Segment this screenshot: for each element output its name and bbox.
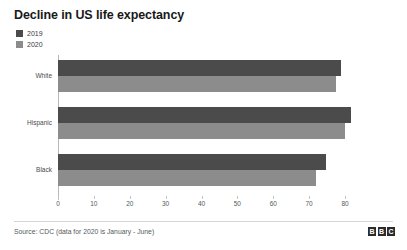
x-axis: 01020304050607080 bbox=[58, 200, 345, 214]
x-tick-mark bbox=[130, 196, 131, 199]
bar-2019[interactable] bbox=[58, 60, 341, 76]
bar-2019[interactable] bbox=[58, 107, 351, 123]
source-note: Source: CDC (data for 2020 is January - … bbox=[14, 228, 154, 235]
bbc-logo: B B C bbox=[368, 227, 395, 236]
x-tick-mark bbox=[345, 196, 346, 199]
bar-group: Black bbox=[58, 154, 345, 186]
bar-2020[interactable] bbox=[58, 123, 345, 139]
logo-box-b2: B bbox=[378, 227, 386, 236]
legend-item-2020[interactable]: 2020 bbox=[16, 40, 43, 49]
category-label: White bbox=[0, 72, 52, 79]
legend-swatch-2019 bbox=[16, 30, 23, 37]
x-tick-label: 80 bbox=[341, 200, 348, 207]
chart-card: Decline in US life expectancy 2019 2020 … bbox=[0, 0, 407, 250]
legend-label-2020: 2020 bbox=[27, 41, 43, 48]
x-tick-label: 0 bbox=[56, 200, 60, 207]
x-tick-label: 30 bbox=[162, 200, 169, 207]
category-label: Hispanic bbox=[0, 119, 52, 126]
x-tick-label: 20 bbox=[126, 200, 133, 207]
bar-2020[interactable] bbox=[58, 76, 336, 92]
bar-2020[interactable] bbox=[58, 170, 316, 186]
logo-box-c: C bbox=[387, 227, 395, 236]
plot-area: WhiteHispanicBlack bbox=[58, 55, 345, 197]
x-tick-label: 70 bbox=[306, 200, 313, 207]
chart-title: Decline in US life expectancy bbox=[14, 8, 184, 22]
bar-2019[interactable] bbox=[58, 154, 326, 170]
x-tick-mark bbox=[58, 196, 59, 199]
logo-box-b1: B bbox=[368, 227, 376, 236]
x-tick-mark bbox=[273, 196, 274, 199]
legend-label-2019: 2019 bbox=[27, 30, 43, 37]
x-tick-mark bbox=[309, 196, 310, 199]
x-tick-mark bbox=[202, 196, 203, 199]
category-label: Black bbox=[0, 166, 52, 173]
x-tick-label: 60 bbox=[270, 200, 277, 207]
footer-divider bbox=[14, 221, 393, 222]
bar-group: White bbox=[58, 60, 345, 92]
x-tick-mark bbox=[94, 196, 95, 199]
chart-legend: 2019 2020 bbox=[16, 29, 43, 51]
x-tick-mark bbox=[166, 196, 167, 199]
x-tick-mark bbox=[237, 196, 238, 199]
x-tick-label: 50 bbox=[234, 200, 241, 207]
legend-swatch-2020 bbox=[16, 41, 23, 48]
legend-item-2019[interactable]: 2019 bbox=[16, 29, 43, 38]
bar-group: Hispanic bbox=[58, 107, 345, 139]
x-tick-label: 10 bbox=[90, 200, 97, 207]
x-tick-label: 40 bbox=[198, 200, 205, 207]
